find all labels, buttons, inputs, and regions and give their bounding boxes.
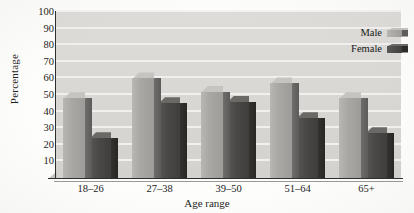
bar-female-27-38 xyxy=(158,103,180,178)
gridline xyxy=(56,10,401,12)
bar-male-39-50 xyxy=(201,92,223,178)
y-axis-tick-label: 80 xyxy=(44,40,55,50)
y-axis-tick-label: 100 xyxy=(38,7,54,17)
y-axis-tick-label: 20 xyxy=(44,140,55,150)
x-axis-line xyxy=(48,178,403,179)
bar-female-51-64 xyxy=(296,118,318,178)
y-axis-tick-label: 10 xyxy=(44,156,55,166)
y-axis-tick-label: 40 xyxy=(44,107,55,117)
bar-female-18-26 xyxy=(89,138,111,178)
legend-label-male: Male xyxy=(360,27,382,38)
bar-front-face xyxy=(63,98,85,178)
legend-item-female: Female xyxy=(316,40,408,56)
bar-side-face xyxy=(111,138,118,178)
bar-front-face xyxy=(201,92,223,178)
y-axis-tick-labels: 102030405060708090100 xyxy=(22,0,54,213)
chart-legend: Male Female xyxy=(316,24,408,56)
bar-male-27-38 xyxy=(132,78,154,178)
bar-side-face xyxy=(361,98,368,178)
bar-front-face xyxy=(132,78,154,178)
gridline xyxy=(56,76,401,78)
bar-side-face xyxy=(85,98,92,178)
bar-chart: Percentage 102030405060708090100 18–2627… xyxy=(0,0,414,213)
bar-side-face xyxy=(318,118,325,178)
bar-front-face xyxy=(89,138,111,178)
bar-female-65+ xyxy=(365,133,387,178)
x-axis-baseline-shadow xyxy=(54,181,403,182)
bar-side-face xyxy=(223,92,230,178)
bar-front-face xyxy=(227,102,249,178)
bar-side-face xyxy=(154,78,161,178)
x-axis-tick-label: 27–38 xyxy=(125,183,194,194)
bar-side-face xyxy=(387,133,394,178)
bar-front-face xyxy=(365,133,387,178)
bar-front-face xyxy=(158,103,180,178)
y-axis-title: Percentage xyxy=(8,37,22,121)
bar-male-51-64 xyxy=(270,83,292,178)
bar-front-face xyxy=(339,98,361,178)
legend-swatch-female xyxy=(387,44,408,53)
y-axis-tick-label: 70 xyxy=(44,57,55,67)
bar-side-face xyxy=(292,83,299,178)
y-axis-line xyxy=(55,11,56,179)
x-axis-title: Age range xyxy=(0,197,414,209)
x-axis-tick-label: 18–26 xyxy=(56,183,125,194)
bar-side-face xyxy=(180,103,187,178)
legend-item-male: Male xyxy=(316,24,408,40)
gridline xyxy=(56,60,401,62)
bar-female-39-50 xyxy=(227,102,249,178)
y-axis-tick-label: 60 xyxy=(44,73,55,83)
bar-side-face xyxy=(249,102,256,178)
y-axis-tick-label: 50 xyxy=(44,90,55,100)
bar-front-face xyxy=(296,118,318,178)
bar-front-face xyxy=(270,83,292,178)
legend-label-female: Female xyxy=(351,43,382,54)
x-axis-tick-label: 39–50 xyxy=(194,183,263,194)
x-axis-tick-label: 65+ xyxy=(332,183,401,194)
bar-male-65+ xyxy=(339,98,361,178)
y-axis-tick-label: 90 xyxy=(44,24,55,34)
bar-male-18-26 xyxy=(63,98,85,178)
y-axis-tick-label: 30 xyxy=(44,123,55,133)
legend-swatch-male xyxy=(387,28,408,37)
x-axis-tick-label: 51–64 xyxy=(263,183,332,194)
